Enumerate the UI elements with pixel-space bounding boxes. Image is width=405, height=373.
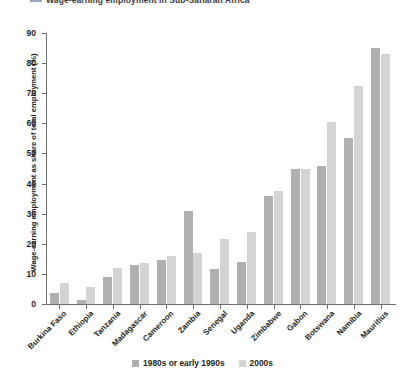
x-axis-tick	[354, 305, 355, 309]
y-axis-tick-label: 40	[4, 179, 36, 189]
legend-item[interactable]: 2000s	[239, 358, 273, 368]
y-axis-tick-label: 50	[4, 148, 36, 158]
x-axis-tick-label: Zambia	[176, 309, 202, 335]
x-axis-tick-label: Gabon	[285, 309, 309, 333]
x-axis-tick	[300, 305, 301, 309]
x-axis-tick	[193, 305, 194, 309]
legend-item[interactable]: 1980s or early 1990s	[132, 358, 225, 368]
bar	[237, 262, 246, 304]
bar	[291, 169, 300, 305]
title-rule-icon	[30, 0, 42, 2]
bar	[113, 268, 122, 304]
bar	[344, 138, 353, 304]
chart-legend: 1980s or early 1990s2000s	[0, 358, 405, 368]
x-axis-tick-label: Ethiopia	[67, 309, 96, 338]
bar	[327, 122, 336, 304]
bar	[167, 256, 176, 304]
y-axis-tick-label: 30	[4, 209, 36, 219]
x-axis-tick	[113, 305, 114, 309]
bar	[264, 196, 273, 304]
legend-swatch-icon	[132, 360, 139, 367]
legend-label: 2000s	[250, 358, 273, 368]
bar	[50, 293, 59, 304]
y-axis-tick-label: 80	[4, 58, 36, 68]
plot-area	[46, 33, 394, 304]
x-axis-tick-label: Mauritius	[358, 309, 390, 341]
bar	[86, 287, 95, 304]
bar	[140, 263, 149, 304]
x-axis-tick-label: Burkina Faso	[27, 309, 69, 351]
x-axis-line	[46, 304, 396, 305]
bar	[130, 265, 139, 304]
x-axis-tick	[220, 305, 221, 309]
bar	[247, 232, 256, 304]
legend-label: 1980s or early 1990s	[143, 358, 225, 368]
y-axis-tick-label: 60	[4, 118, 36, 128]
bar	[193, 253, 202, 304]
x-axis-tick	[86, 305, 87, 309]
legend-swatch-icon	[239, 360, 246, 367]
bar	[103, 277, 112, 304]
chart-container: Wage-earning employment in Sub-Saharan A…	[0, 0, 405, 373]
x-axis-tick	[274, 305, 275, 309]
x-axis-tick	[59, 305, 60, 309]
bar-series-group	[46, 33, 394, 304]
y-axis-tick-label: 10	[4, 269, 36, 279]
y-axis-tick-label: 20	[4, 239, 36, 249]
bar	[301, 169, 310, 305]
bar	[274, 191, 283, 304]
y-axis-tick-label: 0	[4, 299, 36, 309]
y-axis-tick	[42, 304, 46, 305]
bar	[371, 48, 380, 304]
x-axis-tick-label: Senegal	[201, 309, 229, 337]
x-axis-tick	[140, 305, 141, 309]
x-axis-tick	[247, 305, 248, 309]
bar	[381, 54, 390, 304]
bar	[220, 239, 229, 304]
chart-title: Wage-earning employment in Sub-Saharan A…	[46, 0, 346, 6]
y-axis-tick-label: 90	[4, 28, 36, 38]
bar	[354, 86, 363, 304]
bar	[184, 211, 193, 304]
bar	[317, 166, 326, 305]
bar	[60, 283, 69, 304]
x-axis-tick	[381, 305, 382, 309]
bar	[77, 300, 86, 304]
x-axis-tick	[166, 305, 167, 309]
y-axis-title: Wage-earning employment as share of tota…	[29, 38, 38, 288]
x-axis-tick	[327, 305, 328, 309]
bar	[210, 269, 219, 304]
y-axis-tick-label: 70	[4, 88, 36, 98]
bar	[157, 260, 166, 304]
